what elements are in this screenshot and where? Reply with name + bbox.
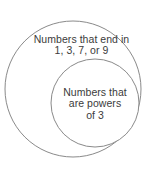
euler-diagram-canvas — [0, 0, 163, 178]
euler-diagram: Numbers that end in 1, 3, 7, or 9 Number… — [0, 0, 163, 178]
inner-set-circle — [51, 59, 139, 147]
